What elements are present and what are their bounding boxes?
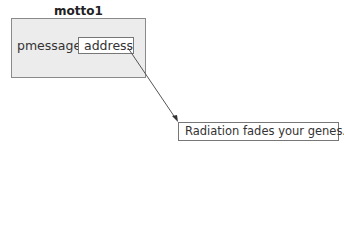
pointee-string-box: Radiation fades your genes. (178, 122, 339, 141)
arrowhead-icon (172, 115, 178, 122)
